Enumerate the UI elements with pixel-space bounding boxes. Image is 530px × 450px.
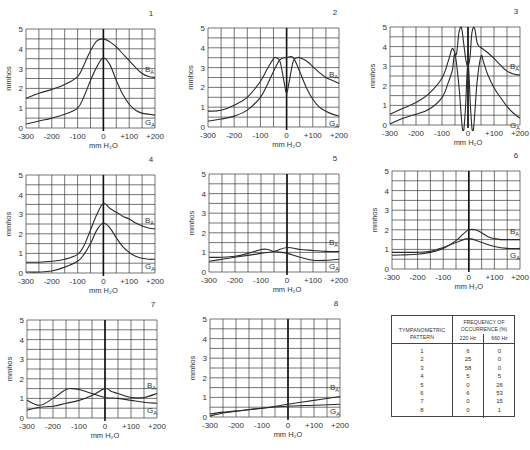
y-ticks: 012345 xyxy=(383,23,388,130)
grid xyxy=(26,175,155,273)
svg-text:3: 3 xyxy=(385,206,390,215)
svg-text:5: 5 xyxy=(201,24,206,33)
series-label-ba: BA xyxy=(510,227,519,237)
svg-text:0: 0 xyxy=(103,422,108,431)
svg-text:+200: +200 xyxy=(146,277,165,286)
cell-660: 15 xyxy=(484,397,515,405)
x-ticks: -300-200-1000+100+200 xyxy=(384,273,530,282)
y-axis-label: mmhos xyxy=(4,211,13,236)
svg-text:-300: -300 xyxy=(200,131,217,140)
svg-text:+100: +100 xyxy=(122,422,141,431)
svg-text:0: 0 xyxy=(101,277,106,286)
svg-text:-200: -200 xyxy=(228,421,245,430)
panel-number: 4 xyxy=(149,155,154,164)
frequency-table: TYMPANOMETRIC PATTERN FREQUENCY OF OCCUR… xyxy=(391,315,515,417)
x-axis-label: mm H₂O xyxy=(91,431,120,440)
svg-text:-200: -200 xyxy=(226,131,243,140)
svg-text:-300: -300 xyxy=(19,422,36,431)
panel-1: 012345-300-200-1000+100+200mmhosmm H₂O1B… xyxy=(4,9,165,150)
series-label-ga: GA xyxy=(145,262,155,272)
panel-6: 012345-300-200-1000+100+200mmhosmm H₂O6B… xyxy=(370,151,530,291)
table-row: 160 xyxy=(392,347,514,355)
cell-pattern: 5 xyxy=(392,381,452,389)
cell-220: 0 xyxy=(453,381,483,389)
x-ticks: -300-200-1000+100+200 xyxy=(201,276,349,285)
svg-text:5: 5 xyxy=(385,167,390,176)
table-row: 455 xyxy=(392,372,514,380)
svg-text:3: 3 xyxy=(20,355,25,364)
cell-pattern: 4 xyxy=(392,372,452,380)
cell-220: 5 xyxy=(453,372,483,380)
svg-text:4: 4 xyxy=(203,335,208,344)
svg-text:5: 5 xyxy=(383,23,388,32)
svg-text:-200: -200 xyxy=(227,276,244,285)
series-label-ba: BA xyxy=(510,62,519,72)
grid xyxy=(26,29,155,128)
panel-number: 8 xyxy=(334,299,339,308)
cell-220: 6 xyxy=(453,347,483,355)
svg-text:-300: -300 xyxy=(18,277,35,286)
svg-text:2: 2 xyxy=(202,229,207,238)
series-label-ba: BA xyxy=(147,381,156,391)
header-220hz: 220 Hz xyxy=(453,335,483,341)
y-axis-label: mmhos xyxy=(5,356,14,381)
table-body: 160 2250 3580 455 5026 6653 7015 801 xyxy=(392,347,514,414)
svg-text:-200: -200 xyxy=(408,129,425,138)
series-label-ba: BA xyxy=(145,216,154,226)
cell-pattern: 3 xyxy=(392,364,452,372)
svg-text:0: 0 xyxy=(467,273,472,282)
x-ticks: -300-200-1000+100+200 xyxy=(200,131,349,140)
panel-4: 012345-300-200-1000+100+200mmhosmm H₂O4B… xyxy=(4,155,165,295)
svg-text:+100: +100 xyxy=(485,129,504,138)
y-ticks: 012345 xyxy=(202,170,207,277)
svg-text:1: 1 xyxy=(19,249,24,258)
panel-number: 3 xyxy=(514,7,519,16)
svg-text:+200: +200 xyxy=(331,421,350,430)
cell-pattern: 2 xyxy=(392,355,452,363)
svg-text:-100: -100 xyxy=(252,131,269,140)
svg-text:+100: +100 xyxy=(485,273,504,282)
svg-text:-200: -200 xyxy=(44,132,61,141)
grid xyxy=(210,319,340,417)
cell-pattern: 6 xyxy=(392,389,452,397)
x-axis-label: mm H₂O xyxy=(89,286,118,295)
svg-text:-300: -300 xyxy=(201,276,218,285)
y-ticks: 012345 xyxy=(201,24,206,132)
svg-text:0: 0 xyxy=(286,421,291,430)
svg-text:+200: +200 xyxy=(330,276,349,285)
svg-text:-200: -200 xyxy=(410,273,427,282)
x-axis-label: mm H₂O xyxy=(272,140,301,149)
svg-text:5: 5 xyxy=(19,171,24,180)
series-label-ga: GA xyxy=(147,406,157,416)
series-label-ga: GA xyxy=(330,407,340,417)
cell-660: 26 xyxy=(484,381,515,389)
panel-2: 012345-300-200-1000+100+200mmhosmm H₂O2B… xyxy=(186,8,349,149)
header-pattern: TYMPANOMETRIC PATTERN xyxy=(392,327,452,341)
x-ticks: -300-200-1000+100+200 xyxy=(18,132,165,141)
series-label-ga: GA xyxy=(329,262,339,272)
svg-text:+100: +100 xyxy=(120,132,139,141)
table-row: 2250 xyxy=(392,355,514,363)
cell-660: 1 xyxy=(484,406,515,414)
series-label-ga: GA xyxy=(145,118,155,128)
svg-text:+100: +100 xyxy=(304,131,323,140)
svg-text:1: 1 xyxy=(201,103,206,112)
svg-text:1: 1 xyxy=(383,101,388,110)
y-ticks: 012345 xyxy=(203,315,208,422)
svg-text:4: 4 xyxy=(201,44,206,53)
x-axis-label: mm H₂O xyxy=(454,138,483,147)
series-label-ba: BA xyxy=(330,383,339,393)
svg-text:2: 2 xyxy=(19,84,24,93)
svg-text:+100: +100 xyxy=(304,276,323,285)
series-label-ba: BA xyxy=(329,70,338,80)
svg-text:+200: +200 xyxy=(146,132,165,141)
svg-text:3: 3 xyxy=(383,62,388,71)
cell-660: 0 xyxy=(484,355,515,363)
svg-text:1: 1 xyxy=(19,104,24,113)
svg-text:2: 2 xyxy=(383,82,388,91)
svg-text:+200: +200 xyxy=(330,131,349,140)
cell-660: 53 xyxy=(484,389,515,397)
svg-text:5: 5 xyxy=(202,170,207,179)
grid xyxy=(390,27,520,125)
panel-5: 012345-300-200-1000+100+200mmhosmm H₂O5B… xyxy=(187,154,349,294)
